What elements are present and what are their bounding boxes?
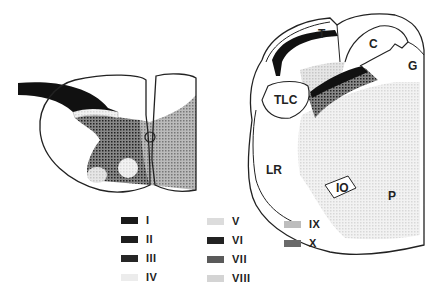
swatch-icon <box>207 275 224 282</box>
swatch-icon <box>121 255 138 262</box>
legend-item-iii: III <box>121 251 157 265</box>
region-label-c: C <box>369 37 378 51</box>
region-label-lr: LR <box>266 163 282 177</box>
region-label-io: IO <box>336 181 349 195</box>
legend-item-v: V <box>207 214 240 228</box>
swatch-icon <box>121 274 138 281</box>
swatch-icon <box>207 256 224 263</box>
legend-item-iv: IV <box>121 270 157 284</box>
swatch-icon <box>121 236 138 243</box>
region-label-tlc: TLC <box>274 93 298 107</box>
swatch-icon <box>284 221 301 228</box>
legend-item-ix: IX <box>284 217 320 231</box>
legend-item-viii: VIII <box>207 271 251 285</box>
swatch-icon <box>121 217 138 224</box>
swatch-icon <box>207 218 224 225</box>
swatch-icon <box>207 237 224 244</box>
region-label-g: G <box>408 59 417 73</box>
region-label-t: T <box>318 27 326 41</box>
region-label-p: P <box>388 189 396 203</box>
spinal-cord-section <box>18 74 196 192</box>
legend-item-ii: II <box>121 232 153 246</box>
legend-item-vii: VII <box>207 252 247 266</box>
legend-item-i: I <box>121 213 150 227</box>
legend-item-x: X <box>284 236 317 250</box>
medulla-section: IO T C G TLC LR P <box>248 14 424 255</box>
swatch-icon <box>284 240 301 247</box>
legend-item-vi: VI <box>207 233 243 247</box>
